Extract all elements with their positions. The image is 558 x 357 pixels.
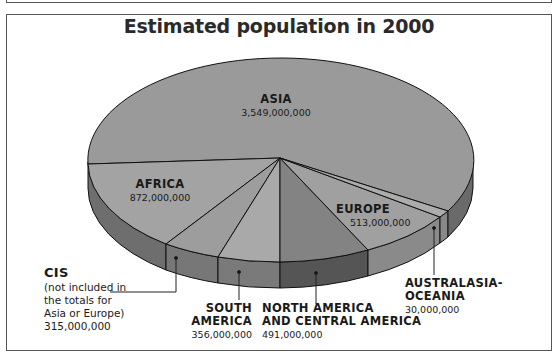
label-europe-name: EUROPE — [336, 203, 436, 216]
label-cis-name: CIS — [44, 265, 144, 281]
label-europe-value: 513,000,000 — [336, 216, 436, 229]
label-africa: AFRICA 872,000,000 — [110, 178, 210, 204]
label-south-america: SOUTH AMERICA 356,000,000 — [142, 302, 252, 341]
label-asia-name: ASIA — [216, 93, 336, 106]
label-australasia: AUSTRALASIA- OCEANIA 30,000,000 — [405, 277, 525, 316]
label-asia: ASIA 3,549,000,000 — [216, 93, 336, 119]
label-africa-value: 872,000,000 — [110, 191, 210, 204]
label-north-america-value: 491,000,000 — [262, 328, 422, 341]
label-australasia-value: 30,000,000 — [405, 303, 525, 316]
label-cis: CIS (not included in the totals for Asia… — [44, 265, 144, 333]
label-cis-note-3: Asia or Europe) — [44, 307, 144, 320]
label-north-america: NORTH AMERICA AND CENTRAL AMERICA 491,00… — [262, 302, 422, 341]
label-cis-note-2: the totals for — [44, 294, 144, 307]
label-africa-name: AFRICA — [110, 178, 210, 191]
label-australasia-name-2: OCEANIA — [405, 290, 525, 303]
label-asia-value: 3,549,000,000 — [216, 106, 336, 119]
label-south-america-name: SOUTH AMERICA — [142, 302, 252, 328]
label-cis-note-1: (not included in — [44, 281, 144, 294]
label-south-america-value: 356,000,000 — [142, 328, 252, 341]
label-cis-value: 315,000,000 — [44, 320, 144, 333]
label-north-america-name-2: AND CENTRAL AMERICA — [262, 315, 422, 328]
label-europe: EUROPE 513,000,000 — [336, 203, 436, 229]
pie-top — [88, 58, 474, 262]
